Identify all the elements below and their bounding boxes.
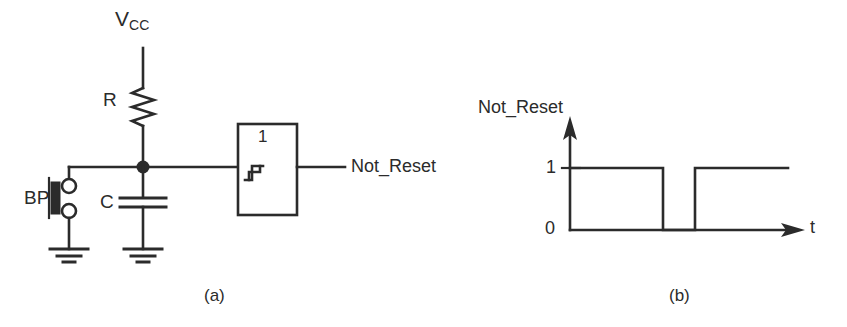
output-signal-label: Not_Reset — [351, 157, 436, 175]
timing-level-low-label: 0 — [545, 219, 555, 237]
supply-label-subscript: CC — [129, 17, 150, 33]
timing-waveform-not-reset — [570, 168, 788, 230]
push-button-contact-top — [62, 179, 76, 193]
figure-root: VCC R C BP 1 Not_Reset Not_Reset 1 0 t (… — [0, 0, 847, 327]
supply-label: VCC — [115, 8, 150, 32]
caption-panel-a: (a) — [204, 287, 225, 304]
resistor-label: R — [103, 90, 117, 109]
gate-number-label: 1 — [258, 128, 267, 145]
timing-level-high-label: 1 — [546, 158, 556, 176]
capacitor-label: C — [100, 192, 114, 211]
push-button-actuator[interactable] — [51, 182, 60, 214]
timing-axis-label: t — [810, 218, 815, 236]
schmitt-trigger-gate-body — [238, 124, 297, 215]
push-button-contact-bottom — [62, 204, 76, 218]
push-button-label: BP — [24, 188, 49, 207]
caption-panel-b: (b) — [669, 287, 690, 304]
supply-label-main: V — [115, 7, 129, 30]
timing-signal-label: Not_Reset — [478, 98, 563, 116]
resistor-symbol — [132, 88, 154, 126]
